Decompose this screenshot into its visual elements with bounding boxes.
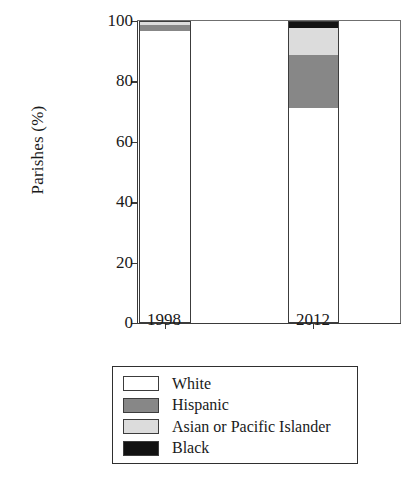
bar-2012 — [288, 21, 339, 323]
x-tick-label-2012: 2012 — [273, 310, 353, 330]
legend-swatch-hispanic — [123, 398, 159, 413]
x-tick-label-1998: 1998 — [124, 310, 204, 330]
legend-swatch-black — [123, 441, 159, 456]
legend-label-white: White — [172, 375, 211, 393]
bar-segment-2012-white — [289, 108, 338, 322]
bar-segment-1998-black — [140, 21, 190, 22]
legend-item-black: Black — [123, 438, 357, 460]
chart-legend: White Hispanic Asian or Pacific Islander… — [112, 366, 358, 464]
y-tick-label-40: 40 — [116, 192, 133, 212]
y-tick-label-80: 80 — [116, 71, 133, 91]
bar-segment-2012-hispanic — [289, 55, 338, 108]
bar-segment-2012-black — [289, 21, 338, 28]
bar-1998 — [139, 21, 191, 323]
legend-item-asian-or-pacific-islander: Asian or Pacific Islander — [123, 416, 357, 438]
bar-segment-1998-white — [140, 31, 190, 322]
y-tick-label-20: 20 — [116, 253, 133, 273]
y-axis-title: Parishes (%) — [28, 40, 48, 260]
y-tick-label-60: 60 — [116, 132, 133, 152]
legend-swatch-white — [123, 376, 159, 391]
bar-segment-1998-hispanic — [140, 25, 190, 31]
legend-label-black: Black — [172, 439, 209, 457]
legend-item-white: White — [123, 373, 357, 395]
y-tick-label-100: 100 — [108, 11, 134, 31]
legend-item-hispanic: Hispanic — [123, 395, 357, 417]
chart-figure: Parishes (%) 020406080100 1998 2012 — [0, 0, 410, 360]
plot-area: 020406080100 — [137, 21, 401, 324]
bar-segment-1998-asian-or-pacific-islander — [140, 22, 190, 25]
legend-label-asian-or-pacific-islander: Asian or Pacific Islander — [172, 418, 331, 436]
legend-swatch-asian-or-pacific-islander — [123, 419, 159, 434]
legend-label-hispanic: Hispanic — [172, 396, 229, 414]
bar-segment-2012-asian-or-pacific-islander — [289, 28, 338, 55]
